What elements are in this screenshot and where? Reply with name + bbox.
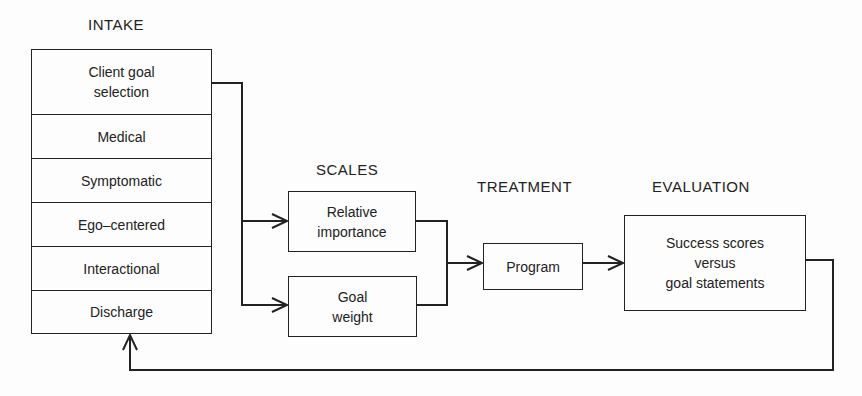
treatment-program-box: Program	[483, 243, 583, 290]
connector-intake-to-scales	[211, 83, 286, 305]
intake-item-label: Client goal selection	[88, 62, 154, 102]
intake-item-label: Interactional	[83, 259, 159, 279]
treatment-item-label: Program	[506, 257, 560, 277]
evaluation-header: EVALUATION	[652, 178, 750, 195]
scales-header: SCALES	[316, 161, 378, 178]
intake-item-discharge: Discharge	[32, 290, 211, 332]
scales-item-label: Goal weight	[332, 287, 372, 327]
connector-scales-to-program	[415, 221, 447, 305]
intake-header: INTAKE	[88, 16, 144, 33]
intake-item-ego-centered: Ego–centered	[32, 202, 211, 246]
intake-item-label: Symptomatic	[81, 171, 162, 191]
intake-item-interactional: Interactional	[32, 246, 211, 290]
scales-goal-weight-box: Goal weight	[288, 276, 417, 337]
intake-item-symptomatic: Symptomatic	[32, 158, 211, 202]
intake-item-client-goal-selection: Client goal selection	[32, 50, 211, 114]
intake-stack: Client goal selection Medical Symptomati…	[31, 49, 212, 334]
evaluation-success-scores-box: Success scores versus goal statements	[624, 215, 806, 311]
evaluation-item-label: Success scores versus goal statements	[666, 233, 765, 293]
intake-item-label: Ego–centered	[78, 215, 165, 235]
scales-relative-importance-box: Relative importance	[288, 191, 416, 252]
intake-item-label: Medical	[97, 127, 145, 147]
intake-item-label: Discharge	[90, 302, 153, 322]
scales-item-label: Relative importance	[317, 202, 386, 242]
intake-item-medical: Medical	[32, 114, 211, 158]
treatment-header: TREATMENT	[477, 178, 572, 195]
